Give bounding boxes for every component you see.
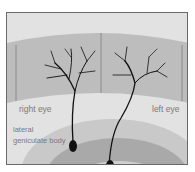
- retina-band: [7, 33, 188, 103]
- right-eye-label: right eye: [19, 105, 52, 114]
- left-eye-label: left eye: [152, 105, 179, 114]
- lgn-label-line1: lateral: [13, 126, 33, 134]
- right-eye-cell-body: [69, 140, 77, 152]
- lgn-label-line2: geniculate body: [13, 137, 66, 145]
- diagram-frame: right eye left eye lateral geniculate bo…: [6, 12, 188, 165]
